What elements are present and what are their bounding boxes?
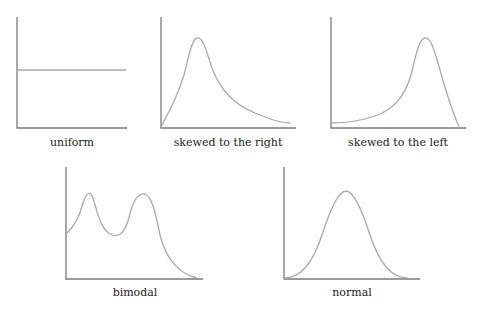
- skewed-left-axes: [331, 17, 466, 128]
- skewed-right-axes: [161, 17, 296, 128]
- skewed-right-label: skewed to the right: [174, 136, 283, 149]
- normal-panel: [284, 167, 420, 279]
- skewed-right-curve: [161, 38, 290, 127]
- skewed-left-panel: [331, 17, 466, 128]
- skewed-right-panel: [161, 17, 296, 128]
- bimodal-panel: [66, 167, 203, 279]
- skewed-left-label: skewed to the left: [348, 136, 448, 149]
- uniform-panel: [17, 17, 127, 128]
- normal-label: normal: [332, 286, 371, 299]
- skewed-left-curve: [331, 38, 459, 127]
- bimodal-axes: [66, 167, 203, 279]
- uniform-axes: [17, 17, 127, 128]
- normal-curve: [284, 191, 408, 278]
- bimodal-curve: [66, 193, 197, 278]
- bimodal-label: bimodal: [113, 286, 158, 299]
- normal-axes: [284, 167, 420, 279]
- uniform-label: uniform: [50, 136, 94, 149]
- distribution-shapes-diagram: [0, 0, 482, 311]
